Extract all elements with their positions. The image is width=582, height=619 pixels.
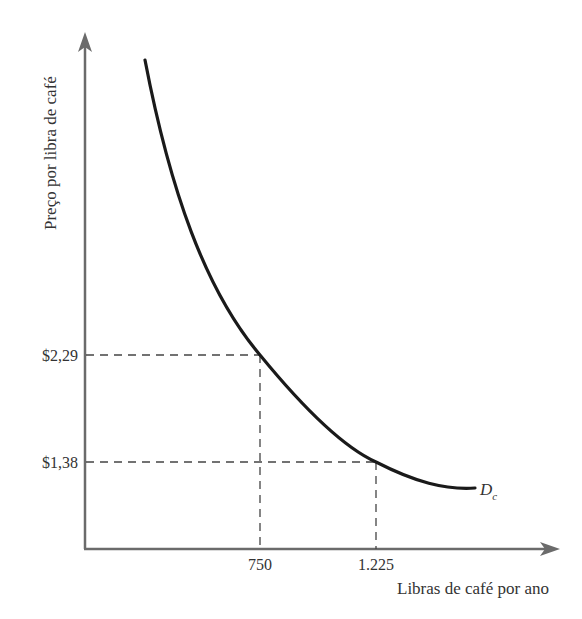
- x-axis-title: Libras de café por ano: [397, 579, 549, 598]
- x-tick-label: 1.225: [358, 556, 394, 573]
- y-tick-label: $2,29: [42, 347, 78, 364]
- y-tick-label: $1,38: [42, 454, 78, 471]
- y-axis-title: Preço por libra de café: [41, 76, 60, 230]
- curve-label: Dc: [479, 480, 497, 502]
- demand-chart: Dc $2,29 $1,38 750 1.225 Libras de café …: [0, 0, 582, 619]
- x-tick-label: 750: [248, 556, 272, 573]
- demand-curve: [145, 60, 475, 488]
